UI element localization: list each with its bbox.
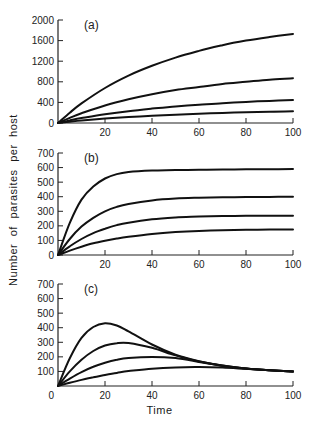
x-tick-label: 60 (193, 390, 205, 401)
x-tick-label: 100 (285, 259, 302, 270)
y-axis-label: Number of parasites per host (2, 100, 24, 300)
y-tick-label: 300 (37, 206, 54, 217)
y-tick-label: 500 (37, 177, 54, 188)
y-tick-label: 400 (37, 322, 54, 333)
y-tick-label: 100 (37, 366, 54, 377)
y-tick-label: 700 (37, 279, 54, 290)
panel-label: (c) (84, 282, 98, 296)
plot-area: 040080012001600200020406080100(a)0100200… (0, 0, 319, 428)
y-tick-label: 800 (37, 76, 54, 87)
data-curve (58, 343, 293, 386)
x-tick-label: 80 (240, 259, 252, 270)
y-tick-label: 600 (37, 162, 54, 173)
x-tick-label: 80 (240, 390, 252, 401)
y-tick-label: 700 (37, 148, 54, 159)
cropped-caption-strip (0, 421, 319, 428)
x-tick-label: 20 (99, 390, 111, 401)
x-tick-label: 20 (99, 127, 111, 138)
y-tick-label: 1200 (32, 56, 55, 67)
panel-b: 010020030040050060070020406080100(b) (37, 148, 301, 271)
y-tick-label: 1600 (32, 35, 55, 46)
y-tick-label: 2000 (32, 15, 55, 26)
x-tick-label: 40 (146, 259, 158, 270)
data-curve (58, 216, 293, 255)
y-tick-label: 400 (37, 191, 54, 202)
y-axis-label-text: Number of parasites per host (7, 114, 19, 286)
data-curve (58, 357, 293, 386)
y-tick-label: 500 (37, 308, 54, 319)
data-curve (58, 169, 293, 255)
data-curve (58, 367, 293, 386)
data-curve (58, 197, 293, 255)
panel-label: (b) (84, 151, 99, 165)
y-tick-label: 100 (37, 235, 54, 246)
y-tick-label: 200 (37, 351, 54, 362)
x-tick-label: 100 (285, 390, 302, 401)
y-tick-label: 600 (37, 293, 54, 304)
y-tick-label: 0 (48, 250, 54, 261)
figure: 040080012001600200020406080100(a)0100200… (0, 0, 319, 428)
x-tick-label: 20 (99, 259, 111, 270)
y-tick-label: 200 (37, 220, 54, 231)
x-tick-label: 40 (146, 127, 158, 138)
y-tick-label: 400 (37, 97, 54, 108)
x-tick-label: 60 (193, 259, 205, 270)
panel-a: 040080012001600200020406080100(a) (32, 15, 302, 139)
x-tick-label: 80 (240, 127, 252, 138)
x-axis-label: Time (0, 404, 319, 416)
y-tick-label: 0 (48, 118, 54, 129)
y-tick-label: 300 (37, 337, 54, 348)
x-tick-label: 60 (193, 127, 205, 138)
x-tick-label: 40 (146, 390, 158, 401)
x-tick-label: 0 (48, 390, 54, 401)
panel-c: 100200300400500600700020406080100(c) (37, 279, 301, 402)
x-tick-label: 100 (285, 127, 302, 138)
panel-label: (a) (84, 18, 99, 32)
